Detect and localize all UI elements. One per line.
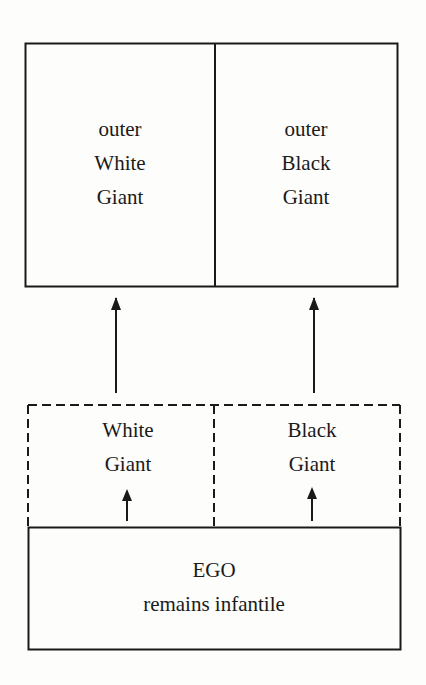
outer-white-giant-label: outer White Giant bbox=[25, 112, 215, 214]
inner-white-giant-label: White Giant bbox=[28, 413, 228, 481]
arrowhead-icon bbox=[111, 297, 121, 310]
arrowhead-icon bbox=[307, 487, 317, 499]
arrowhead-icon bbox=[309, 297, 319, 310]
ego-label: EGO remains infantile bbox=[28, 553, 400, 621]
arrowhead-icon bbox=[122, 489, 132, 501]
inner-black-giant-label: Black Giant bbox=[214, 413, 410, 481]
outer-black-giant-label: outer Black Giant bbox=[215, 112, 397, 214]
